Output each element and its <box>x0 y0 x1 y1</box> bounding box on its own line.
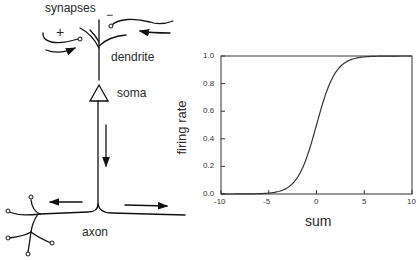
synapse-inhibitory <box>111 19 173 26</box>
ytick-1-0: 1.0 <box>203 51 214 60</box>
xtick-neg10: -10 <box>214 197 226 206</box>
plot-frame <box>221 56 412 194</box>
arrow-in-left <box>46 48 75 52</box>
label-dendrite: dendrite <box>111 50 154 64</box>
ytick-0-6: 0.6 <box>203 106 214 115</box>
x-axis-label: sum <box>305 213 331 229</box>
neuron-diagram <box>0 0 200 260</box>
label-synapses: synapses <box>45 1 96 15</box>
ytick-0-2: 0.2 <box>203 161 214 170</box>
ytick-0-8: 0.8 <box>203 79 214 88</box>
soma-triangle <box>90 85 108 101</box>
xtick-10: 10 <box>407 197 416 206</box>
xtick-0: 0 <box>314 197 318 206</box>
ytick-0-0: 0.0 <box>203 189 214 198</box>
label-plus: + <box>56 24 64 40</box>
arrow-in-right <box>140 31 170 33</box>
xtick-5: 5 <box>362 197 366 206</box>
y-axis-label: firing rate <box>174 100 189 154</box>
label-axon: axon <box>82 225 108 239</box>
axon-trunk <box>40 101 98 214</box>
label-soma: soma <box>117 86 146 100</box>
xtick-neg5: -5 <box>263 197 270 206</box>
sigmoid-curve <box>221 56 412 194</box>
dendrite-branch-right <box>99 35 126 46</box>
ytick-0-4: 0.4 <box>203 134 214 143</box>
arrow-right <box>125 205 167 206</box>
label-minus: − <box>106 8 113 22</box>
